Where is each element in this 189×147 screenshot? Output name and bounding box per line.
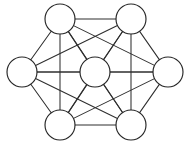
- graph-edge-right-to-bottom-left: [73, 78, 155, 118]
- graph-edge-right-to-bottom-right: [139, 84, 159, 113]
- node-circle-top-right: [116, 4, 146, 34]
- graph-node-center: [80, 57, 110, 87]
- graph-node-top-left: [45, 4, 75, 34]
- graph-edge-bottom-right-to-center: [103, 84, 123, 113]
- graph-canvas: [0, 0, 189, 147]
- node-layer: [7, 4, 183, 140]
- node-circle-bottom-right: [116, 110, 146, 140]
- graph-diagram: [0, 0, 189, 147]
- node-circle-center: [80, 57, 110, 87]
- graph-edge-bottom-left-to-left: [30, 84, 51, 113]
- node-circle-left: [7, 57, 37, 87]
- node-circle-bottom-left: [45, 110, 75, 140]
- graph-edge-top-right-to-right: [139, 31, 159, 60]
- graph-edge-bottom-left-to-center: [68, 84, 87, 113]
- graph-node-left: [7, 57, 37, 87]
- graph-edge-top-left-to-right: [73, 25, 155, 65]
- graph-node-bottom-right: [116, 110, 146, 140]
- graph-edge-top-right-to-left: [35, 25, 118, 65]
- graph-node-bottom-left: [45, 110, 75, 140]
- node-circle-top-left: [45, 4, 75, 34]
- graph-edge-top-right-to-center: [103, 31, 123, 60]
- graph-edge-bottom-right-to-left: [35, 78, 118, 118]
- graph-node-top-right: [116, 4, 146, 34]
- graph-node-right: [153, 57, 183, 87]
- node-circle-right: [153, 57, 183, 87]
- graph-edge-top-left-to-left: [30, 31, 51, 60]
